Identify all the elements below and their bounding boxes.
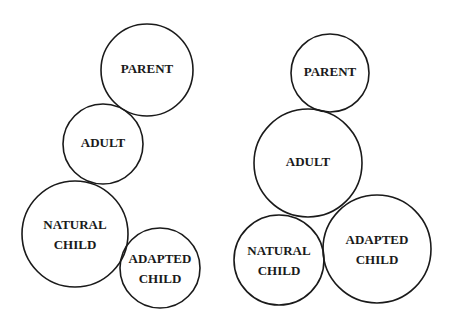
right-adapted-child-label-line1: ADAPTED: [346, 232, 409, 247]
left-diagram: PARENT ADULT NATURAL CHILD ADAPTED CHILD: [22, 24, 200, 308]
right-natural-child-label-line1: NATURAL: [247, 243, 311, 258]
right-parent-label: PARENT: [304, 64, 357, 79]
left-adapted-child-label-line1: ADAPTED: [129, 251, 192, 266]
left-adapted-child-circle: ADAPTED CHILD: [120, 228, 200, 308]
left-parent-circle: PARENT: [101, 24, 193, 116]
right-adult-circle: ADULT: [254, 109, 362, 217]
left-natural-child-circle: NATURAL CHILD: [22, 181, 128, 287]
left-natural-child-label-line2: CHILD: [54, 237, 97, 252]
left-adult-circle: ADULT: [63, 104, 143, 184]
right-adult-label: ADULT: [286, 154, 331, 169]
right-adapted-child-circle: ADAPTED CHILD: [323, 195, 431, 303]
left-adapted-child-label-line2: CHILD: [139, 271, 182, 286]
ego-states-diagram: PARENT ADULT NATURAL CHILD ADAPTED CHILD…: [0, 0, 450, 326]
right-natural-child-label-line2: CHILD: [258, 263, 301, 278]
right-natural-child-circle: NATURAL CHILD: [234, 215, 324, 305]
right-diagram: PARENT ADULT NATURAL CHILD ADAPTED CHILD: [234, 34, 431, 305]
left-parent-label: PARENT: [121, 61, 174, 76]
right-adapted-child-label-line2: CHILD: [356, 252, 399, 267]
left-natural-child-label-line1: NATURAL: [43, 217, 107, 232]
right-parent-circle: PARENT: [291, 34, 369, 112]
left-adult-label: ADULT: [81, 135, 126, 150]
